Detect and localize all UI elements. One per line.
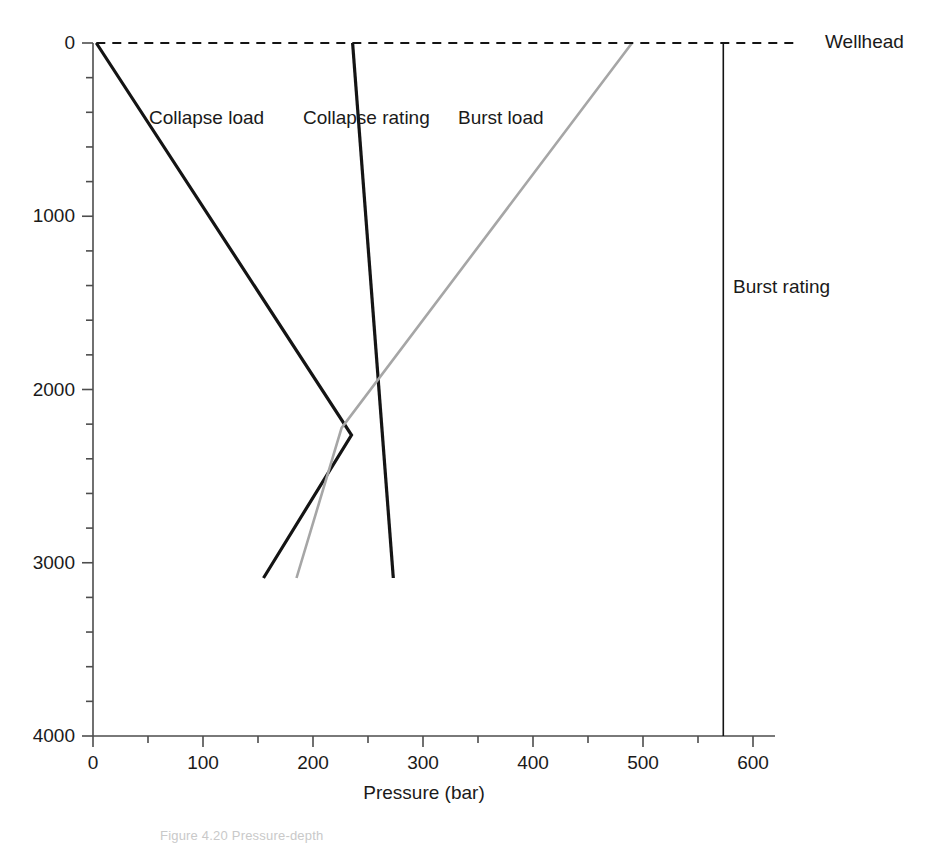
- x-tick-label-100: 100: [187, 752, 219, 774]
- x-tick-label-0: 0: [88, 752, 99, 774]
- series-label-wellhead: Wellhead: [825, 31, 904, 53]
- x-axis-title: Pressure (bar): [363, 782, 484, 804]
- x-tick-label-300: 300: [407, 752, 439, 774]
- series-label-burst-load: Burst load: [458, 107, 544, 129]
- x-tick-label-400: 400: [517, 752, 549, 774]
- series-label-collapse-load: Collapse load: [149, 107, 264, 129]
- figure-caption: Figure 4.20 Pressure-depth: [160, 828, 323, 843]
- x-tick-label-600: 600: [737, 752, 769, 774]
- y-tick-label-0: 0: [0, 32, 75, 54]
- x-tick-label-500: 500: [627, 752, 659, 774]
- y-tick-label-1000: 1000: [0, 205, 75, 227]
- x-tick-label-200: 200: [297, 752, 329, 774]
- series-label-collapse-rating: Collapse rating: [303, 107, 430, 129]
- y-tick-label-3000: 3000: [0, 552, 75, 574]
- y-tick-label-2000: 2000: [0, 379, 75, 401]
- axes: [82, 43, 775, 747]
- y-tick-label-4000: 4000: [0, 725, 75, 747]
- series-label-burst-rating: Burst rating: [733, 276, 830, 298]
- data-series: [96, 43, 797, 736]
